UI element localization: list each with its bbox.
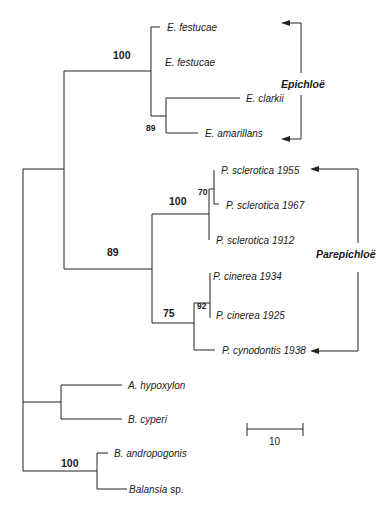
bootstrap-value: 100 (113, 49, 131, 61)
bootstrap-value: 70 (198, 187, 208, 197)
taxon-label: P. cinerea 1934 (213, 271, 282, 282)
genus-label-parepichloe: Parepichloë (316, 248, 376, 260)
taxon-label: P. sclerotica 1955 (221, 165, 300, 176)
taxon-label: E. amarillans (205, 128, 263, 139)
taxon-label: E. festucae (165, 57, 215, 68)
bootstrap-value: 100 (61, 457, 79, 469)
taxon-genus: Balansia (129, 484, 168, 495)
bootstrap-value: 89 (146, 123, 156, 133)
scale-bar: 10 (247, 423, 303, 447)
scale-bar-label: 10 (269, 436, 281, 447)
arrow-left-icon (281, 136, 290, 142)
taxon-label: P. cynodontis 1938 (222, 345, 306, 356)
taxon-label: E. festucae (167, 22, 217, 33)
parepichloe-bracket: Parepichloë (310, 166, 376, 354)
bootstrap-value: 92 (197, 301, 207, 311)
epichloe-bracket: Epichloë (281, 20, 325, 142)
arrow-left-icon (310, 348, 319, 354)
taxon-label: P. cinerea 1925 (216, 310, 285, 321)
taxon-label: B. andropogonis (114, 448, 187, 459)
taxon-label: A. hypoxylon (127, 380, 186, 391)
taxon-label: E. clarkii (246, 93, 285, 104)
bootstrap-value: 89 (107, 246, 119, 258)
taxon-label: B. cyperi (128, 414, 168, 425)
taxon-label: P. sclerotica 1912 (216, 235, 295, 246)
genus-label-epichloe: Epichloë (281, 78, 325, 90)
taxon-label: P. sclerotica 1967 (226, 200, 305, 211)
taxon-label: Balansia sp. (129, 484, 183, 495)
taxon-sp: sp. (170, 484, 183, 495)
arrow-left-icon (310, 166, 319, 172)
arrow-left-icon (281, 20, 290, 26)
phylogenetic-tree: E. festucae E. festucae E. clarkii E. am… (0, 0, 388, 509)
bootstrap-value: 100 (169, 195, 187, 207)
bootstrap-value: 75 (163, 307, 175, 319)
